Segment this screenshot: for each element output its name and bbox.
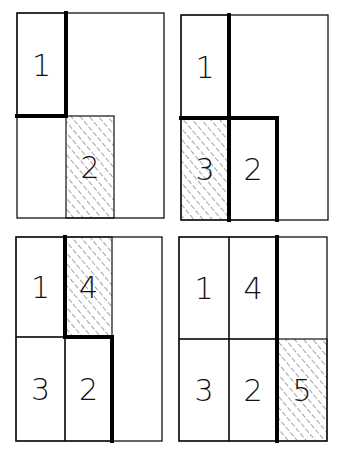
cell-label-2: 2 <box>243 373 262 408</box>
panel-step-3: 1432 <box>16 237 162 441</box>
cell-label-1: 1 <box>32 48 51 83</box>
cell-label-2: 2 <box>80 150 99 185</box>
panel-step-2: 132 <box>181 15 328 220</box>
cell-label-3: 3 <box>195 152 214 187</box>
cell-label-4: 4 <box>79 270 98 305</box>
cell-label-3: 3 <box>31 372 50 407</box>
layout-sequence-diagram: 12132143214325 <box>0 0 342 455</box>
cell-label-5: 5 <box>292 373 311 408</box>
cell-label-2: 2 <box>79 372 98 407</box>
cell-label-1: 1 <box>31 270 50 305</box>
cell-label-2: 2 <box>243 152 262 187</box>
cell-label-4: 4 <box>243 271 262 306</box>
panel-step-4: 14325 <box>179 237 327 441</box>
cell-label-1: 1 <box>195 50 214 85</box>
panel-step-1: 12 <box>17 13 164 218</box>
cell-label-3: 3 <box>194 373 213 408</box>
cell-label-1: 1 <box>194 271 213 306</box>
